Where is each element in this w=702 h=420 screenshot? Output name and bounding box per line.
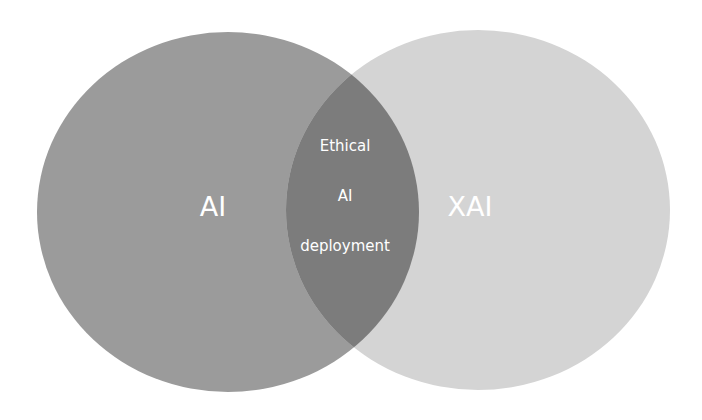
intersection-line-2: AI [338,187,353,205]
intersection-line-3: deployment [300,237,390,255]
intersection-line-1: Ethical [320,137,371,155]
venn-diagram [0,0,702,420]
set-xai-label: XAI [448,191,493,222]
set-ai-label: AI [200,191,226,222]
